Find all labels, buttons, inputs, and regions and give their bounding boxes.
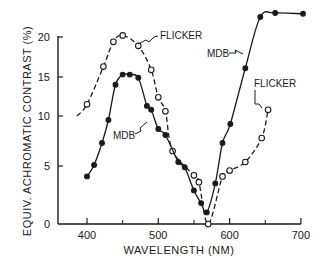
annotation-flicker-right: FLICKER — [254, 78, 296, 89]
leader-mdb-left — [135, 122, 147, 134]
data-point-flicker — [111, 39, 117, 45]
y-tick-label: 10 — [38, 110, 50, 122]
data-point-mdb — [106, 118, 111, 123]
data-point-mdb — [301, 11, 306, 16]
data-point-flicker — [196, 179, 202, 185]
data-point-mdb — [127, 72, 132, 77]
y-tick-label: 15 — [38, 71, 50, 83]
data-point-mdb — [92, 163, 97, 168]
data-point-mdb — [192, 188, 197, 193]
data-point-mdb — [163, 133, 168, 138]
data-point-mdb — [113, 82, 118, 87]
data-point-flicker — [265, 107, 271, 113]
series-line-mdb — [87, 12, 303, 213]
data-point-flicker — [220, 174, 226, 180]
y-tick-label: 0 — [44, 218, 50, 230]
data-point-mdb — [199, 201, 204, 206]
data-point-mdb — [258, 15, 263, 20]
data-point-flicker — [156, 95, 162, 101]
x-tick-label: 500 — [149, 229, 167, 241]
annotation-mdb-left: MDB — [113, 130, 136, 141]
data-point-mdb — [213, 181, 218, 186]
data-point-mdb — [156, 127, 161, 132]
data-point-mdb — [85, 174, 90, 179]
data-point-mdb — [243, 66, 248, 71]
data-point-mdb — [176, 160, 181, 165]
data-point-mdb — [100, 141, 105, 146]
data-point-flicker — [101, 64, 107, 70]
data-point-flicker — [205, 221, 211, 227]
axes: 05101520400500600700 — [38, 31, 310, 241]
data-point-mdb — [273, 11, 278, 16]
data-point-flicker — [120, 33, 126, 39]
leader-flicker-top — [138, 36, 158, 44]
series-layer — [77, 11, 305, 227]
series-mdb — [85, 11, 306, 215]
y-tick-label: 5 — [44, 160, 50, 172]
data-point-flicker — [227, 168, 233, 174]
data-point-mdb — [120, 72, 125, 77]
x-tick-label: 700 — [292, 229, 310, 241]
data-point-mdb — [145, 104, 150, 109]
annotation-mdb-right: MDB — [207, 48, 230, 59]
data-point-flicker — [191, 173, 197, 179]
x-tick-label: 400 — [78, 229, 96, 241]
annotation-flicker-top: FLICKER — [160, 30, 202, 41]
data-point-flicker — [259, 135, 265, 141]
data-point-mdb — [204, 210, 209, 215]
data-point-mdb — [228, 122, 233, 127]
data-point-flicker — [84, 102, 90, 108]
data-point-flicker — [148, 67, 154, 73]
x-axis-title: WAVELENGTH (NM) — [124, 244, 235, 256]
data-point-flicker — [163, 109, 169, 115]
data-point-flicker — [243, 159, 249, 165]
data-point-mdb — [149, 107, 154, 112]
spectral-contrast-chart: 05101520400500600700 FLICKER MDB MDB FLI… — [0, 0, 326, 268]
data-point-mdb — [182, 165, 187, 170]
data-point-mdb — [220, 141, 225, 146]
data-point-mdb — [136, 75, 141, 80]
y-tick-label: 20 — [38, 31, 50, 43]
leader-mdb-right — [229, 50, 243, 54]
leader-flicker-right — [255, 90, 262, 108]
x-tick-label: 600 — [220, 229, 238, 241]
y-axis-title: EQUIV. ACHROMATIC CONTRAST (%) — [21, 26, 33, 236]
